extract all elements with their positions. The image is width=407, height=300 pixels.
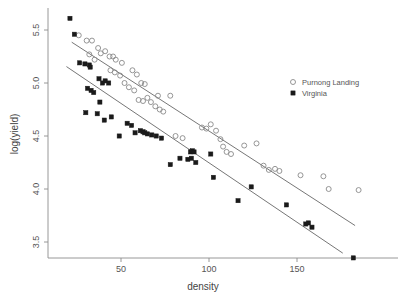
chart-background [0, 0, 407, 300]
y-tick-label: 4.5 [31, 130, 41, 143]
data-point-virginia [150, 133, 154, 137]
data-point-virginia [97, 77, 101, 81]
y-tick-label: 5.5 [31, 24, 41, 37]
data-point-virginia [145, 132, 149, 136]
data-point-virginia [107, 81, 111, 85]
data-point-virginia [78, 61, 82, 65]
data-point-virginia [284, 203, 288, 207]
data-point-virginia [125, 121, 129, 125]
data-point-virginia [95, 112, 99, 116]
data-point-virginia [88, 65, 92, 69]
data-point-virginia [178, 156, 182, 160]
x-tick-label: 50 [116, 264, 126, 274]
data-point-virginia [154, 134, 158, 138]
data-point-virginia [72, 32, 76, 36]
x-axis-title: density [187, 281, 219, 292]
data-point-virginia [117, 134, 121, 138]
data-point-virginia [310, 225, 314, 229]
data-point-virginia [102, 118, 106, 122]
data-point-virginia [83, 62, 87, 66]
x-tick-label: 150 [289, 264, 304, 274]
y-axis-title: log(yield) [9, 114, 20, 155]
y-tick-label: 3.5 [31, 236, 41, 249]
x-tick-label: 100 [201, 264, 216, 274]
data-point-virginia [168, 163, 172, 167]
data-point-virginia [306, 221, 310, 225]
data-point-virginia [98, 100, 102, 104]
data-point-virginia [209, 152, 213, 156]
data-point-virginia [109, 115, 113, 119]
data-point-virginia [211, 175, 215, 179]
data-point-virginia [92, 90, 96, 94]
data-point-virginia [351, 256, 355, 260]
data-point-virginia [68, 16, 72, 20]
scatter-plot-figure: 3.54.04.55.05.5 50100150 Purnong Landing… [0, 0, 407, 300]
legend-marker-filled-square-icon [291, 91, 295, 95]
data-point-virginia [84, 111, 88, 115]
y-tick-label: 5.0 [31, 77, 41, 90]
data-point-virginia [133, 131, 137, 135]
data-point-virginia [249, 185, 253, 189]
data-point-virginia [189, 156, 193, 160]
chart-canvas: 3.54.04.55.05.5 50100150 Purnong Landing… [0, 0, 407, 300]
data-point-virginia [192, 150, 196, 154]
data-point-virginia [236, 199, 240, 203]
legend-label: Purnong Landing [302, 78, 359, 87]
data-point-virginia [129, 123, 133, 127]
data-point-virginia [194, 160, 198, 164]
data-point-virginia [159, 136, 163, 140]
y-tick-label: 4.0 [31, 183, 41, 196]
legend-label: Virginia [302, 89, 328, 98]
